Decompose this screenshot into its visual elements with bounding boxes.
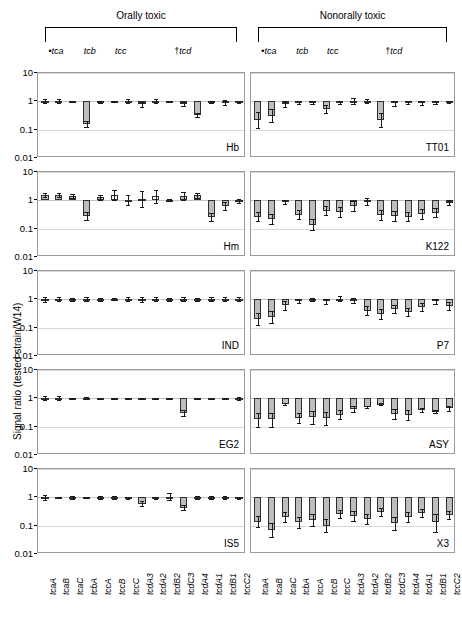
errorcap-IS5-tccC2-high — [237, 497, 241, 498]
errorbar-ASY-tcaB — [272, 413, 273, 427]
errorcap-ASY-tcdB2-high — [379, 403, 383, 404]
errorcap-P7-tccC-high — [338, 296, 342, 297]
errorcap-P7-tcdA4-low — [406, 316, 410, 317]
errorcap-K122-tcdB1-low — [433, 217, 437, 218]
errorcap-X3-tccC2-low — [447, 519, 451, 520]
y-tickmark-10 — [34, 72, 37, 73]
y-tickmark-0.1 — [34, 228, 37, 229]
y-tickmark-10 — [34, 270, 37, 271]
errorbar-P7-tcdA4 — [408, 308, 409, 317]
errorbar-X3-tcdB1 — [436, 514, 437, 532]
errorcap-TT01-tcaC-low — [283, 107, 287, 108]
errorcap-X3-tcdA3-high — [351, 511, 355, 512]
errorcap-X3-tcdA2-low — [365, 524, 369, 525]
errorcap-Hb-tccC-high — [126, 99, 130, 100]
y-tickmark-10 — [34, 369, 37, 370]
errorcap-EG2-tcaA-high — [43, 396, 47, 397]
gridline-10 — [38, 469, 244, 470]
errorcap-Hm-tcaB-high — [57, 193, 61, 194]
errorcap-Hb-tcdA1-low — [209, 103, 213, 104]
errorcap-K122-tccC2-low — [447, 205, 451, 206]
gridline-10 — [251, 469, 454, 470]
errorcap-ASY-tcdA3-low — [351, 412, 355, 413]
x-label-right-tccB: tccB — [329, 578, 339, 595]
errorbar-X3-tcbA — [299, 517, 300, 528]
errorbar-X3-tcaB — [272, 523, 273, 537]
panel-IND: IND — [37, 270, 245, 355]
errorcap-TT01-tcbA-low — [297, 104, 301, 105]
y-tickmark-1 — [34, 397, 37, 398]
errorcap-X3-tcdB2-low — [379, 516, 383, 517]
errorcap-X3-tcaB-low — [269, 537, 273, 538]
errorcap-P7-tccB-high — [324, 299, 328, 300]
errorcap-IND-tcdB2-low — [167, 301, 171, 302]
errorbar-X3-tcdA4 — [408, 512, 409, 522]
errorcap-EG2-tcdB1-low — [223, 399, 227, 400]
errorcap-TT01-tcdC3-low — [392, 106, 396, 107]
errorcap-ASY-tccC-low — [338, 419, 342, 420]
errorcap-X3-tcdA2-high — [365, 514, 369, 515]
errorbar-P7-tcdC3 — [395, 305, 396, 313]
errorcap-K122-tcdA1-low — [420, 219, 424, 220]
errorcap-TT01-tcdB1-high — [433, 101, 437, 102]
errorbar-TT01-tcaB — [272, 109, 273, 122]
errorcap-IS5-tcdB1-low — [223, 499, 227, 500]
errorcap-Hb-tcdC3-low — [181, 106, 185, 107]
errorcap-K122-tccC-low — [338, 217, 342, 218]
errorcap-P7-tcdA4-high — [406, 308, 410, 309]
errorcap-X3-tcdB1-high — [433, 514, 437, 515]
errorcap-K122-tcdA3-low — [351, 211, 355, 212]
errorcap-IND-tcaA-low — [43, 302, 47, 303]
errorbar-ASY-tcaA — [258, 413, 259, 427]
errorcap-IND-tccB-high — [112, 298, 116, 299]
panel-label-K122: K122 — [426, 241, 449, 252]
errorcap-EG2-tcaB-low — [57, 400, 61, 401]
errorcap-Hb-tcdA2-high — [154, 99, 158, 100]
errorcap-TT01-tcbA-high — [297, 101, 301, 102]
y-tickmark-0.1 — [34, 327, 37, 328]
errorcap-P7-tcdC3-high — [392, 305, 396, 306]
x-label-right-tcaA: tcaA — [260, 578, 270, 595]
errorcap-IS5-tcdA1-high — [209, 496, 213, 497]
errorcap-P7-tccC-low — [338, 301, 342, 302]
x-label-right-tcdA4: tcdA4 — [411, 573, 421, 595]
errorcap-IS5-tcdC3-low — [181, 510, 185, 511]
errorcap-Hm-tcbA-high — [84, 212, 88, 213]
errorcap-EG2-tccC-low — [126, 399, 130, 400]
errorcap-TT01-tccC-low — [338, 104, 342, 105]
errorcap-Hb-tccA-low — [98, 103, 102, 104]
errorcap-K122-tcdA4-high — [406, 212, 410, 213]
errorcap-TT01-tcaB-low — [269, 122, 273, 123]
errorcap-K122-tccB-low — [324, 215, 328, 216]
errorcap-X3-tcaA-high — [256, 516, 260, 517]
errorcap-EG2-tcaC-low — [70, 399, 74, 400]
errorcap-IS5-tccA-high — [98, 496, 102, 497]
errorcap-Hm-tcaA-high — [43, 193, 47, 194]
errorcap-ASY-tcdB2-low — [379, 405, 383, 406]
errorcap-TT01-tcaB-high — [269, 109, 273, 110]
errorcap-Hm-tccA-high — [98, 195, 102, 196]
errorcap-Hb-tccC2-low — [237, 103, 241, 104]
errorcap-K122-tcdA2-low — [365, 205, 369, 206]
errorcap-Hb-tcdA4-high — [195, 113, 199, 114]
errorcap-ASY-tcaA-high — [256, 413, 260, 414]
errorcap-IS5-tccC2-low — [237, 499, 241, 500]
errorcap-P7-tcdA3-low — [351, 303, 355, 304]
errorcap-EG2-tcdA4-low — [195, 399, 199, 400]
errorcap-IND-tccC-low — [126, 301, 130, 302]
errorbar-K122-tcdA1 — [422, 209, 423, 219]
errorbar-ASY-tcdA4 — [408, 410, 409, 420]
errorbar-X3-tccB — [326, 519, 327, 532]
errorcap-Hb-tcaA-low — [43, 103, 47, 104]
y-tick-10: 10 — [3, 364, 33, 375]
errorbar-Hb-tcbA — [87, 121, 88, 128]
errorcap-Hm-tccC-high — [126, 195, 130, 196]
errorbar-P7-tcdA1 — [422, 303, 423, 311]
errorcap-P7-tcdC3-low — [392, 313, 396, 314]
x-label-left-tccC: tccC — [131, 578, 141, 595]
errorcap-ASY-tcdA4-low — [406, 420, 410, 421]
group-title-orally-toxic: Orally toxic — [37, 10, 245, 21]
errorcap-P7-tcaA-high — [256, 313, 260, 314]
errorcap-TT01-tcdA2-low — [365, 103, 369, 104]
errorbar-X3-tccC — [340, 510, 341, 519]
